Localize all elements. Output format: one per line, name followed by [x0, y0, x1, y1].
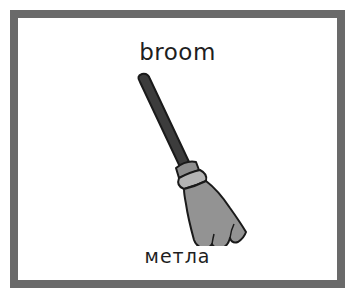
english-word: broom: [18, 39, 337, 65]
flashcard: broom метла: [10, 10, 345, 288]
russian-word: метла: [18, 245, 337, 267]
broom-icon: [118, 66, 258, 246]
broom-handle: [138, 74, 190, 169]
broom-bristles: [184, 181, 246, 246]
